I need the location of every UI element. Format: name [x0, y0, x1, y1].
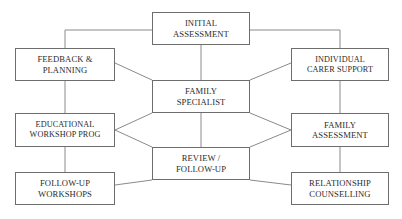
node-individual-carer-support[interactable]: INDIVIDUAL CARER SUPPORT	[291, 48, 389, 81]
node-relationship-counselling[interactable]: RELATIONSHIP COUNSELLING	[291, 172, 389, 205]
flowchart-diagram: INITIAL ASSESSMENTFEEDBACK & PLANNINGIND…	[0, 0, 402, 219]
connector-review-to-relationship	[250, 180, 291, 185]
connector-family-assessment-to-review	[250, 130, 291, 147]
node-label-family-assessment: FAMILY ASSESSMENT	[310, 120, 370, 141]
node-review-follow-up[interactable]: REVIEW / FOLLOW-UP	[152, 147, 250, 180]
connector-educational-to-specialist	[115, 113, 152, 130]
node-follow-up-workshops[interactable]: FOLLOW-UP WORKSHOPS	[15, 172, 115, 205]
connector-educational-to-review	[115, 130, 152, 147]
connector-feedback-to-specialist	[115, 63, 152, 80]
node-label-initial-assessment: INITIAL ASSESSMENT	[171, 18, 231, 39]
connector-review-to-follow-up-workshops	[115, 180, 152, 185]
node-label-feedback-planning: FEEDBACK & PLANNING	[35, 54, 94, 75]
node-initial-assessment[interactable]: INITIAL ASSESSMENT	[152, 12, 250, 45]
connector-carer-support-to-specialist	[250, 63, 291, 80]
node-label-review-follow-up: REVIEW / FOLLOW-UP	[174, 153, 228, 174]
node-feedback-planning[interactable]: FEEDBACK & PLANNING	[15, 48, 115, 81]
node-label-educational-workshop-prog: EDUCATIONAL WORKSHOP PROG	[28, 120, 103, 140]
node-family-specialist[interactable]: FAMILY SPECIALIST	[152, 80, 250, 113]
node-label-relationship-counselling: RELATIONSHIP COUNSELLING	[307, 178, 373, 199]
node-family-assessment[interactable]: FAMILY ASSESSMENT	[291, 113, 389, 147]
node-label-individual-carer-support: INDIVIDUAL CARER SUPPORT	[305, 55, 375, 75]
connector-initial-to-carer-support	[250, 30, 340, 48]
connector-initial-to-feedback	[65, 30, 152, 48]
connector-family-assessment-to-specialist	[250, 113, 291, 130]
node-educational-workshop-prog[interactable]: EDUCATIONAL WORKSHOP PROG	[15, 113, 115, 147]
node-label-family-specialist: FAMILY SPECIALIST	[175, 86, 228, 107]
node-label-follow-up-workshops: FOLLOW-UP WORKSHOPS	[36, 178, 94, 199]
